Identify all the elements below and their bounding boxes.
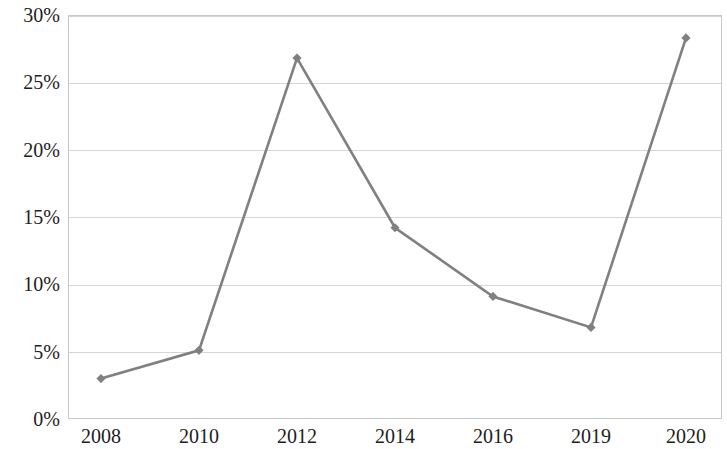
- x-tick-label: 2016: [473, 426, 513, 446]
- y-axis-tick-labels: 30% 25% 20% 15% 10% 5% 0%: [0, 0, 60, 449]
- gridline: [69, 150, 721, 151]
- y-tick-label: 25%: [23, 72, 60, 92]
- y-tick-label: 0%: [33, 409, 60, 429]
- plot-area: [68, 15, 722, 419]
- gridline: [69, 16, 721, 17]
- y-tick-label: 20%: [23, 140, 60, 160]
- y-tick-label: 10%: [23, 274, 60, 294]
- gridline: [69, 217, 721, 218]
- x-tick-label: 2008: [81, 426, 121, 446]
- x-tick-label: 2019: [571, 426, 611, 446]
- gridline: [69, 285, 721, 286]
- y-tick-label: 30%: [23, 5, 60, 25]
- x-tick-label: 2012: [277, 426, 317, 446]
- x-tick-label: 2010: [179, 426, 219, 446]
- x-tick-label: 2020: [666, 426, 706, 446]
- line-chart: 30% 25% 20% 15% 10% 5% 0% 2008 2010 2012…: [0, 0, 727, 449]
- y-tick-label: 5%: [33, 342, 60, 362]
- y-tick-label: 15%: [23, 207, 60, 227]
- gridline: [69, 352, 721, 353]
- x-tick-label: 2014: [375, 426, 415, 446]
- gridline: [69, 83, 721, 84]
